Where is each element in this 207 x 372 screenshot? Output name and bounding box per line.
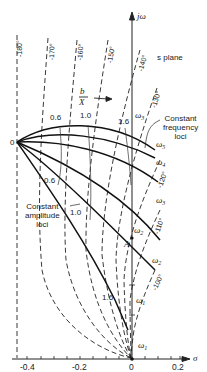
annotation-line: Constant — [25, 202, 60, 211]
point-a-label: A — [124, 240, 130, 249]
freq-label-w5: ωω55 — [156, 140, 165, 152]
axis-label-w2: ω2 — [134, 226, 143, 238]
freq-label-w3: ω3 — [156, 196, 165, 208]
constant-phase-loci — [17, 35, 160, 358]
annotation-line: frequency — [163, 123, 198, 132]
annotation-line: amplitude — [25, 211, 60, 220]
x-tick-neg-0-2: -0.2 — [72, 363, 87, 372]
constant-amplitude-annotation: Constant amplitude loci — [25, 202, 60, 229]
frequency-locus-w4 — [17, 142, 158, 182]
origin-marker — [130, 357, 134, 361]
phase-locus--160 — [65, 40, 131, 358]
vector-arrow-icon — [106, 97, 112, 102]
vector-numerator: b — [80, 87, 85, 96]
phase-locus--140 — [102, 50, 140, 358]
x-tick-neg-0-4: -0.4 — [20, 363, 35, 372]
freq-label-w4: ω4 — [156, 158, 165, 170]
amplitude-0-6-lower: 0.6 — [44, 176, 55, 185]
amplitude-1-6-lower: 1.6 — [102, 293, 113, 302]
origin-zero-label: 0 — [10, 138, 14, 147]
s-plane-label: s plane — [157, 53, 183, 62]
freq-label-w1-end: ω1 — [138, 341, 147, 353]
amplitude-1-6-upper: 1.6 — [118, 117, 129, 126]
amplitude-1-0-lower: 1.0 — [70, 208, 81, 217]
phase-label-170: -170° — [47, 43, 57, 60]
phase-label-160: -160° — [75, 43, 85, 61]
leaders — [70, 120, 160, 206]
jw-axis-arrow-icon — [130, 12, 135, 20]
x-tick-0-2: 0.2 — [172, 363, 184, 372]
vector-denominator: X — [79, 98, 85, 107]
sigma-axis-label: σ — [193, 354, 197, 363]
amplitude-0-6-upper: 0.6 — [50, 113, 61, 122]
frequency-locus-w5 — [17, 126, 155, 150]
constant-frequency-annotation: Constant frequency loci — [163, 114, 198, 141]
freq-label-w2: ω2 — [152, 256, 161, 268]
annotation-line: loci — [163, 132, 198, 141]
x-tick-0: 0 — [129, 363, 134, 372]
jw-axis-label: jω — [137, 12, 146, 21]
axis-label-w1: ω1 — [136, 296, 145, 308]
phase-label-180: -180° — [15, 40, 24, 57]
axis-label-w3: ω3 — [135, 111, 144, 123]
annotation-line: loci — [25, 220, 60, 229]
amplitude-1-0-upper: 1.0 — [80, 111, 91, 120]
annotation-line: Constant — [163, 114, 198, 123]
sigma-axis-arrow-icon — [182, 357, 190, 362]
